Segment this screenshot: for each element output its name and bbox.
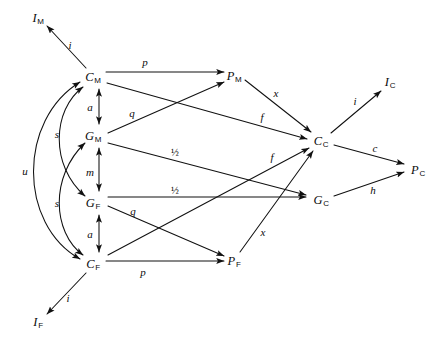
edge-label-gf-gc-half: ½	[171, 185, 179, 196]
edge-label-gf-cf-a: a	[87, 228, 93, 240]
node-P-F[interactable]: PF	[228, 254, 241, 269]
edge-cf-to-cc	[108, 148, 309, 255]
edge-label-cf-cc-f: f	[270, 151, 273, 163]
edge-label-cm-cc-f: f	[260, 111, 263, 123]
node-I-C[interactable]: IC	[385, 75, 395, 90]
edge-label-cc-ic-i: i	[353, 95, 356, 107]
node-C-M[interactable]: CM	[85, 70, 100, 85]
edge-label-gf-pf-q: q	[130, 205, 136, 217]
edge-cm-cf-u	[34, 82, 81, 259]
edge-label-cf-pf-p: p	[140, 266, 146, 278]
edge-label-cm-gm-a: a	[87, 101, 93, 113]
edge-gf-to-pf	[108, 206, 224, 256]
diagram-edges-layer	[0, 0, 440, 342]
node-P-C[interactable]: PC	[411, 163, 425, 178]
edge-pf-to-cc	[240, 151, 313, 252]
node-C-F[interactable]: CF	[86, 257, 100, 272]
edge-label-cm-cf-u: u	[22, 165, 28, 177]
edge-label-gm-cf-s: s	[55, 197, 59, 209]
edge-gm-to-gc	[108, 143, 306, 195]
node-G-C[interactable]: GC	[313, 193, 328, 208]
edge-label-gm-pm-q: q	[129, 107, 135, 119]
node-G-M[interactable]: GM	[85, 129, 101, 144]
edge-label-gm-gf-m: m	[86, 166, 94, 178]
node-P-M[interactable]: PM	[227, 69, 242, 84]
edge-gc-to-pc	[334, 172, 404, 196]
node-G-F[interactable]: GF	[86, 196, 100, 211]
edge-gm-to-pm	[108, 82, 224, 133]
edge-label-gc-pc-h: h	[370, 184, 376, 196]
diagram-canvas: IM CM GM GF CF IF PM PF CC GC IC PC i i …	[0, 0, 440, 342]
edge-label-pf-cc-x: x	[261, 226, 266, 238]
edge-label-cm-im-i: i	[68, 39, 71, 51]
edge-cm-to-im	[47, 26, 86, 68]
node-I-F[interactable]: IF	[33, 315, 42, 330]
edge-label-cm-pm-p: p	[142, 56, 148, 68]
edge-label-pm-cc-x: x	[274, 87, 279, 99]
edge-label-cc-pc-c: c	[373, 142, 378, 154]
edge-label-gf-cm-s: s	[55, 128, 59, 140]
edge-label-gm-gc-half: ½	[171, 147, 179, 158]
node-I-M[interactable]: IM	[32, 11, 43, 26]
node-C-C[interactable]: CC	[314, 134, 329, 149]
edge-cc-to-pc	[334, 145, 404, 164]
edge-label-cf-if-i: i	[66, 292, 69, 304]
edge-gm-cf-s	[59, 143, 85, 255]
